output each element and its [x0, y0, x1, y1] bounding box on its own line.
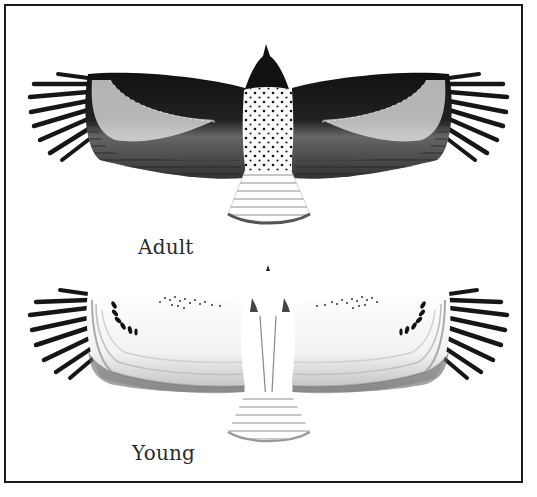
adult-bird	[30, 44, 507, 223]
adult-head	[244, 44, 290, 92]
young-right-primaries	[441, 290, 507, 378]
young-bird	[30, 265, 507, 441]
young-left-primaries	[30, 290, 96, 378]
bird-illustration	[0, 0, 537, 497]
adult-right-primaries	[445, 74, 507, 160]
adult-left-primaries	[30, 74, 92, 160]
young-beak	[266, 265, 270, 271]
young-label: Young	[132, 441, 195, 465]
young-body	[241, 272, 295, 392]
adult-label: Adult	[138, 235, 194, 259]
